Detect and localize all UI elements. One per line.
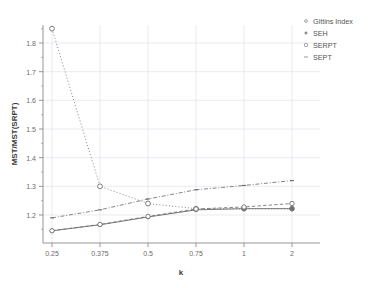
data-point — [146, 214, 150, 218]
legend-marker-icon — [305, 32, 307, 34]
chart-container: 1.8 1.7 1.6 1.5 1.4 1.3 1.2 MST/MST(SRPT… — [0, 0, 378, 288]
data-point — [98, 184, 103, 189]
legend-label: Gittins Index — [313, 17, 353, 26]
data-point — [290, 207, 294, 211]
data-point — [98, 222, 102, 226]
y-tick-label: 1.3 — [26, 183, 36, 190]
y-tick-label: 1.6 — [26, 97, 36, 104]
legend-label: SEH — [313, 29, 328, 38]
data-point — [194, 207, 198, 211]
line-chart: 1.8 1.7 1.6 1.5 1.4 1.3 1.2 MST/MST(SRPT… — [0, 0, 378, 288]
x-tick-label: 0.5 — [143, 250, 153, 257]
y-axis-title: MST/MST(SRPT) — [10, 102, 19, 165]
y-tick-label: 1.5 — [26, 126, 36, 133]
x-tick-label: 0.25 — [45, 250, 59, 257]
legend-label: SEPT — [313, 53, 332, 62]
y-tick-label: 1.4 — [26, 155, 36, 162]
y-tick-label: 1.8 — [26, 40, 36, 47]
x-tick-label: 0.375 — [91, 250, 109, 257]
x-axis-title: k — [179, 268, 184, 277]
y-tick-label: 1.2 — [26, 212, 36, 219]
x-tick-label: 2 — [290, 250, 294, 257]
data-point — [242, 205, 246, 209]
legend-label: SERPT — [313, 41, 338, 50]
data-point — [290, 201, 294, 205]
y-tick-label: 1.7 — [26, 69, 36, 76]
x-tick-label: 1 — [242, 250, 246, 257]
x-tick-label: 0.75 — [189, 250, 203, 257]
data-point — [146, 201, 151, 206]
data-point — [50, 229, 54, 233]
data-point — [50, 26, 55, 31]
